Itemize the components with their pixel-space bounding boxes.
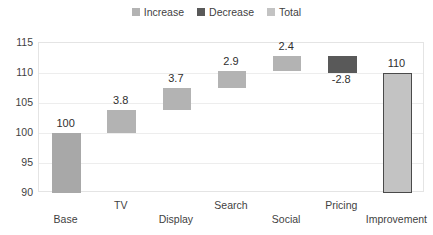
y-axis-tick-label: 100 [0,126,33,138]
y-axis-tick-label: 90 [0,186,33,198]
bar-value-label: 3.7 [148,72,203,84]
bar-value-label: 110 [369,57,424,69]
legend-swatch-decrease [197,8,205,16]
x-axis-label-pricing: Pricing [299,199,384,211]
x-axis-label-search: Search [188,199,273,211]
x-axis-label-social: Social [244,213,329,225]
legend-item-total: Total [267,6,301,18]
bar-value-label: -2.8 [314,73,369,85]
legend-swatch-total [267,8,275,16]
waterfall-chart: Increase Decrease Total 1151101051009590… [0,0,433,235]
x-axis-label-base: Base [23,213,108,225]
legend-label-decrease: Decrease [209,6,254,18]
x-axis-label-display: Display [133,213,218,225]
bar-value-label: 2.4 [259,40,314,52]
bar-pricing [328,56,357,73]
x-axis-label-tv: TV [78,199,163,211]
legend-item-increase: Increase [132,6,184,18]
bar-value-label: 2.9 [203,55,258,67]
bar-tv [107,110,136,133]
legend-label-total: Total [279,6,301,18]
bar-social [273,56,302,70]
bar-value-label: 3.8 [93,94,148,106]
bar-value-label: 100 [38,117,93,129]
gridline [39,163,423,164]
y-axis-tick-label: 110 [0,66,33,78]
bar-display [163,88,192,110]
y-axis-tick-label: 115 [0,36,33,48]
legend-item-decrease: Decrease [197,6,254,18]
gridline [39,133,423,134]
chart-legend: Increase Decrease Total [0,6,433,18]
bar-search [218,71,247,88]
legend-label-increase: Increase [144,6,184,18]
bar-improvement [383,73,412,193]
legend-swatch-increase [132,8,140,16]
bar-base [52,133,81,193]
x-axis-label-improvement: Improvement [354,213,433,225]
y-axis-tick-label: 95 [0,156,33,168]
y-axis-tick-label: 105 [0,96,33,108]
